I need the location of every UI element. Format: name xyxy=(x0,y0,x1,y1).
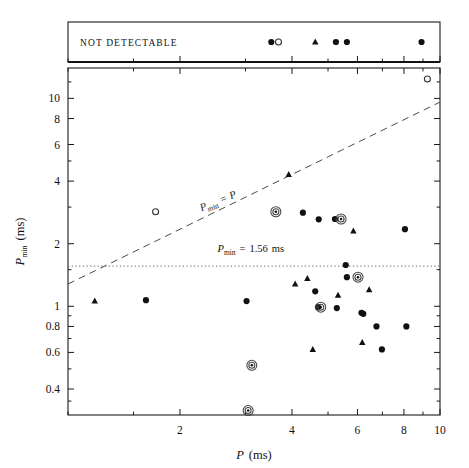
data-point xyxy=(310,346,316,352)
data-point xyxy=(336,214,346,224)
band-marker xyxy=(333,39,339,45)
x-tick-label: 2 xyxy=(177,424,183,436)
data-point xyxy=(424,76,430,82)
series-upper-limits-open xyxy=(153,76,431,215)
figure-canvas: NOT DETECTABLE 24681010864210.80.60.4 Pm… xyxy=(0,0,469,468)
data-point xyxy=(360,311,366,317)
band-marker xyxy=(275,39,281,45)
tick-labels: 24681010864210.80.60.4 xyxy=(46,92,446,436)
data-point xyxy=(271,207,281,217)
y-axis-title: Pmin(ms) xyxy=(13,217,29,266)
center-dot xyxy=(251,364,254,367)
y-tick-label: 4 xyxy=(54,175,60,187)
data-point xyxy=(359,339,365,345)
data-point xyxy=(243,406,253,416)
data-point xyxy=(243,298,249,304)
data-point xyxy=(316,216,322,222)
y-tick-label: 6 xyxy=(54,139,60,151)
identity-line-label: Pmin=P xyxy=(197,188,239,216)
x-tick-label: 4 xyxy=(289,424,295,436)
data-point xyxy=(332,216,338,222)
not-detectable-band: NOT DETECTABLE xyxy=(68,22,440,62)
threshold-line-label: Pmin=1.56ms xyxy=(216,243,284,257)
data-point xyxy=(334,305,340,311)
center-dot xyxy=(275,210,278,213)
data-point xyxy=(312,288,318,294)
data-point xyxy=(285,171,291,177)
identity-line xyxy=(68,102,440,284)
series-detections-filled xyxy=(143,210,410,353)
data-point xyxy=(92,298,98,304)
y-tick-label: 10 xyxy=(49,92,61,104)
band-marker xyxy=(268,39,274,45)
data-point xyxy=(403,323,409,329)
y-tick-label: 0.8 xyxy=(46,320,61,332)
data-point xyxy=(143,297,149,303)
data-point xyxy=(292,280,298,286)
data-point xyxy=(153,209,159,215)
plot-annotations: Pmin=PPmin=1.56ms xyxy=(197,188,284,257)
data-point xyxy=(344,274,350,280)
data-point xyxy=(247,360,257,370)
band-marker xyxy=(344,39,350,45)
y-tick-label: 8 xyxy=(54,113,60,125)
x-axis-title: P(ms) xyxy=(235,448,272,462)
data-point xyxy=(353,272,363,282)
data-point xyxy=(316,302,326,312)
series-detections-circled xyxy=(243,207,363,416)
data-point xyxy=(402,226,408,232)
center-dot xyxy=(340,218,343,221)
x-tick-label: 8 xyxy=(401,424,407,436)
data-point xyxy=(343,262,349,268)
x-tick-label: 10 xyxy=(434,424,446,436)
data-point xyxy=(304,275,310,281)
data-point xyxy=(350,228,356,234)
data-point xyxy=(366,286,372,292)
data-point xyxy=(373,323,379,329)
band-marker xyxy=(418,39,424,45)
center-dot xyxy=(357,276,360,279)
y-tick-label: 2 xyxy=(54,238,60,250)
y-tick-label: 0.4 xyxy=(46,383,61,395)
data-point xyxy=(335,292,341,298)
data-point xyxy=(379,346,385,352)
x-tick-label: 6 xyxy=(355,424,361,436)
center-dot xyxy=(247,409,250,412)
scatter-plot: NOT DETECTABLE 24681010864210.80.60.4 Pm… xyxy=(0,0,469,468)
reference-lines xyxy=(68,102,440,284)
y-tick-label: 1 xyxy=(54,300,60,312)
data-point xyxy=(300,210,306,216)
center-dot xyxy=(319,306,322,309)
not-detectable-label: NOT DETECTABLE xyxy=(80,38,178,48)
y-tick-label: 0.6 xyxy=(46,346,61,358)
